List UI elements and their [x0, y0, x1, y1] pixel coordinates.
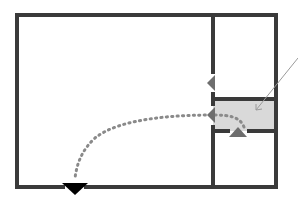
door-arrow-upper-icon: [207, 75, 215, 91]
door-arrow-middle-icon: [207, 107, 215, 123]
floor-plan-diagram: [0, 0, 298, 211]
